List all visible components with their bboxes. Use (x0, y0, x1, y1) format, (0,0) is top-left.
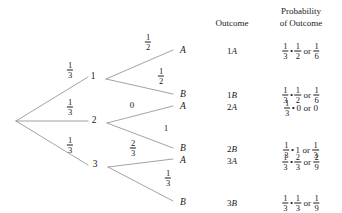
outcome-3B: 3B (227, 199, 237, 208)
header-probability-line1: Probability (281, 7, 321, 16)
leaf-node-3A: A (180, 156, 186, 166)
leaf-node-1B: B (180, 90, 186, 100)
edge-label-root-to-2: 1 3 (67, 98, 73, 117)
leaf-node-3B: B (180, 198, 186, 208)
or-connector: or (301, 103, 314, 112)
fraction-one-half: 1 2 (145, 32, 151, 51)
or-connector: or (301, 157, 314, 166)
probability-tree-diagram: Outcome Probability of Outcome 1 3 1 3 1… (0, 0, 342, 213)
outcome-1B: 1B (227, 91, 237, 100)
outcome-letter: A (232, 102, 238, 112)
probability-1A: 1 3 • 1 2 or 1 6 (282, 42, 319, 61)
outcome-2B: 2B (227, 145, 237, 154)
outcome-letter: B (232, 90, 238, 100)
probability-result: 0 (313, 103, 318, 112)
edge-label-root-to-3: 1 3 (67, 136, 73, 155)
edge-label-1-to-A: 1 2 (145, 33, 151, 52)
node-3: 3 (93, 160, 98, 170)
fraction-one-third: 1 3 (67, 97, 73, 116)
edge-label-3-to-A: 2 3 (130, 139, 136, 158)
probability-result: 1 6 (313, 41, 319, 60)
fraction-one-third: 1 3 (165, 168, 171, 187)
probability-3A: 1 3 • 2 3 or 2 9 (282, 153, 319, 172)
probability-result: 2 9 (313, 152, 319, 171)
outcome-letter: A (232, 46, 238, 56)
probability-2A: 1 3 •0or0 (284, 99, 318, 118)
leaf-node-2B: B (180, 144, 186, 154)
edge-label-3-to-B: 1 3 (165, 169, 171, 188)
branch-root-to-1 (16, 77, 88, 121)
fraction-one-third: 1 3 (67, 135, 73, 154)
node-1: 1 (91, 72, 96, 82)
outcome-letter: A (232, 156, 238, 166)
outcome-1A: 1A (227, 47, 237, 56)
fraction-two-thirds: 2 3 (130, 138, 136, 157)
outcome-3A: 3A (227, 157, 237, 166)
fraction-one-third: 1 3 (67, 60, 73, 79)
leaf-node-1A: A (180, 46, 186, 56)
branch-3-to-A (108, 159, 173, 167)
edge-label-root-to-1: 1 3 (67, 61, 73, 80)
edge-label-2-to-A: 0 (130, 101, 135, 110)
edge-label-2-to-B: 1 (164, 124, 169, 133)
or-connector: or (301, 198, 314, 207)
probability-result: 1 9 (313, 193, 319, 212)
outcome-letter: B (232, 198, 238, 208)
header-probability-line2: of Outcome (280, 19, 323, 28)
branch-root-to-3 (16, 121, 88, 165)
outcome-letter: B (232, 144, 238, 154)
probability-3B: 1 3 • 1 3 or 1 9 (282, 194, 319, 213)
or-connector: or (301, 46, 314, 55)
branch-2-to-A (107, 106, 173, 123)
header-outcome: Outcome (216, 19, 249, 28)
leaf-node-2A: A (180, 102, 186, 112)
edge-label-1-to-B: 1 2 (158, 67, 164, 86)
outcome-2A: 2A (227, 103, 237, 112)
branch-3-to-B (108, 167, 173, 201)
fraction-one-half: 1 2 (158, 66, 164, 85)
node-2: 2 (92, 116, 97, 126)
